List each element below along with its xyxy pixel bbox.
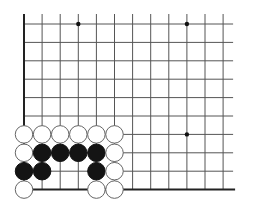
white-stone bbox=[15, 144, 33, 162]
star-point-icon bbox=[76, 22, 80, 26]
white-stone bbox=[33, 126, 51, 144]
white-stone bbox=[15, 126, 33, 144]
white-stone bbox=[106, 162, 124, 180]
star-point-icon bbox=[185, 22, 189, 26]
grid-lines bbox=[24, 14, 233, 190]
black-stone bbox=[70, 144, 88, 162]
star-point-icon bbox=[185, 132, 189, 136]
black-stone bbox=[88, 144, 106, 162]
white-stone bbox=[106, 144, 124, 162]
board-edges bbox=[23, 14, 235, 191]
white-stone bbox=[51, 126, 68, 144]
white-stone bbox=[15, 181, 33, 199]
white-stone bbox=[106, 181, 124, 199]
black-stone bbox=[15, 162, 33, 180]
stones bbox=[15, 126, 123, 199]
white-stone bbox=[88, 126, 106, 144]
black-stone bbox=[88, 162, 106, 180]
black-stone bbox=[51, 144, 68, 162]
white-stone bbox=[70, 126, 88, 144]
white-stone bbox=[88, 181, 106, 199]
white-stone bbox=[106, 126, 124, 144]
black-stone bbox=[33, 162, 51, 180]
black-stone bbox=[33, 144, 51, 162]
go-board bbox=[0, 0, 253, 212]
